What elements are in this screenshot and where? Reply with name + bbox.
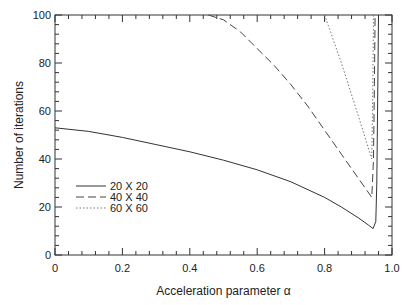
line-chart: 00.20.40.60.81.0020406080100Acceleration… [0, 0, 411, 305]
legend-label: 60 X 60 [110, 202, 148, 214]
y-tick-label: 80 [39, 57, 51, 69]
series-dashed-line [208, 15, 375, 197]
y-axis-label: Number of iterations [12, 81, 26, 189]
plot-frame [55, 15, 392, 255]
x-tick-label: 0 [52, 262, 58, 274]
x-axis-label: Acceleration parameter α [156, 284, 290, 298]
x-tick-label: 0.8 [317, 262, 332, 274]
x-tick-label: 1.0 [384, 262, 399, 274]
x-tick-label: 0.2 [115, 262, 130, 274]
x-tick-label: 0.6 [250, 262, 265, 274]
y-tick-label: 100 [33, 9, 51, 21]
series-dotted-line [325, 15, 374, 159]
y-tick-label: 40 [39, 153, 51, 165]
x-tick-label: 0.4 [182, 262, 197, 274]
y-tick-label: 20 [39, 201, 51, 213]
y-tick-label: 60 [39, 105, 51, 117]
y-tick-label: 0 [45, 249, 51, 261]
